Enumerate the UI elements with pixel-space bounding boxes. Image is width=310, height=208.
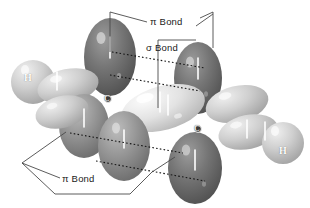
pi-bond-bottom-leader [22, 132, 175, 194]
hydrogen-label-left: H [24, 73, 32, 83]
hydrogen-label-right: H [279, 146, 287, 156]
pi-bond-top-label: π Bond [150, 17, 183, 27]
figure-canvas: π Bond σ Bond π Bond H H C C [0, 0, 310, 208]
dotted-bond-guides [70, 52, 205, 181]
carbon-label-left: C [104, 95, 110, 103]
sigma-bond-label: σ Bond [146, 43, 178, 53]
pi-bond-bottom-label: π Bond [62, 174, 95, 184]
carbon-label-right: C [194, 125, 200, 133]
annotation-lines [0, 0, 310, 208]
